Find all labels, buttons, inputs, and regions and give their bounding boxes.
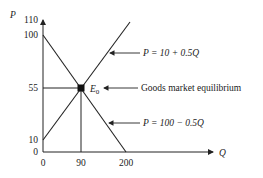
supply-equation-label: P = 10 + 0.5Q [142,48,199,58]
y-axis-label: P [9,10,16,20]
equilibrium-label: E0 [89,84,100,96]
x-tick-200: 200 [119,158,134,168]
x-tick-90: 90 [76,158,86,168]
x-axis-label: Q [219,148,226,158]
y-tick-100: 100 [24,30,39,40]
demand-equation-label: P = 100 − 0.5Q [142,118,204,128]
equilibrium-chart: P 110 100 55 10 0 0 90 200 Q E0 P = 10 +… [0,0,263,178]
y-tick-110: 110 [24,15,38,25]
y-tick-10: 10 [29,135,39,145]
y-tick-55: 55 [29,83,39,93]
y-tick-0: 0 [33,147,38,157]
equilibrium-annotation-label: Goods market equilibrium [141,83,242,93]
line-p-10-plus-0.5q [43,22,130,140]
equilibrium-point [78,85,85,92]
x-tick-0: 0 [41,158,46,168]
